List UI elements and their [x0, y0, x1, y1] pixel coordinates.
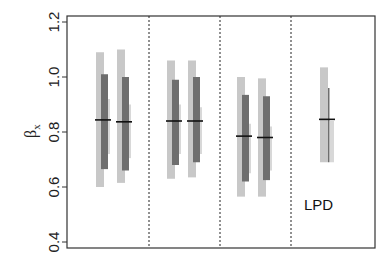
y-axis-label-sub: x: [30, 124, 42, 130]
y-axis: 0.40.60.81.01.2: [45, 12, 67, 253]
y-tick-label: 1.2: [45, 12, 62, 33]
inner-interval-bar: [172, 80, 179, 165]
y-tick-label: 0.6: [45, 177, 62, 198]
y-tick-label: 0.4: [45, 232, 62, 253]
inner-interval-bar: [101, 74, 108, 169]
inner-interval-bar: [193, 77, 200, 162]
interval-bars: [95, 50, 335, 197]
inner-interval-bar: [122, 77, 129, 171]
outer-interval-bar: [320, 67, 328, 162]
y-tick-label: 1.0: [45, 67, 62, 88]
y-axis-label-main: β: [22, 130, 40, 138]
inner-interval-line: [328, 88, 330, 162]
y-axis-label: βx: [22, 124, 42, 138]
inner-interval-bar: [242, 95, 249, 182]
narrow-interval-bar: [330, 121, 334, 162]
interval-chart: 0.40.60.81.01.2 βx LPD: [0, 0, 392, 262]
panel-label-lpd: LPD: [304, 196, 333, 213]
y-tick-label: 0.8: [45, 122, 62, 143]
